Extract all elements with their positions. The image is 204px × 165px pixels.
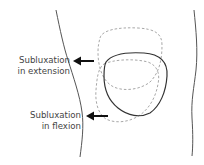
label-line: Subluxation: [2, 110, 81, 121]
label-line: Subluxation: [2, 55, 70, 66]
diagram-canvas: [0, 0, 204, 165]
label-line: in flexion: [2, 121, 81, 132]
patellar-subluxation-diagram: Subluxation in extension Subluxation in …: [0, 0, 204, 165]
arrow-left-icon: [86, 112, 108, 121]
patella-flexion-dashed: [96, 60, 159, 122]
right-leg-outline: [192, 10, 197, 156]
arrow-left-icon: [73, 57, 94, 66]
label-line: in extension: [2, 66, 70, 77]
patella-normal-outline: [104, 53, 167, 116]
patella-extension-dashed: [98, 28, 162, 90]
label-subluxation-flexion: Subluxation in flexion: [2, 110, 81, 132]
left-leg-outline: [56, 10, 83, 157]
label-subluxation-extension: Subluxation in extension: [2, 55, 70, 77]
